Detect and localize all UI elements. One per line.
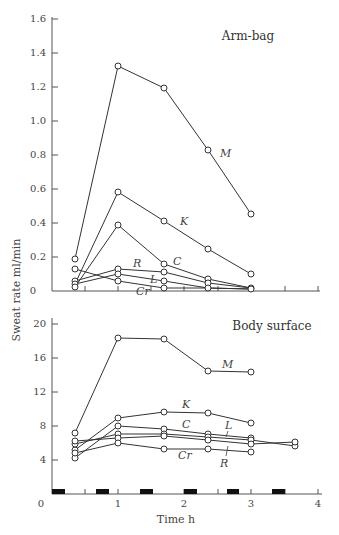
y-tick-label: 8 bbox=[40, 420, 46, 431]
x-tick-label: 1 bbox=[115, 498, 121, 509]
series-label-M: M bbox=[219, 147, 232, 160]
y-tick-label: 1.6 bbox=[30, 13, 46, 24]
y-tick-label: 12 bbox=[33, 386, 46, 397]
panel-title-body-surface: Body surface bbox=[232, 319, 311, 333]
series-label-K: K bbox=[179, 215, 189, 228]
y-tick-label: 0.4 bbox=[30, 217, 46, 228]
y-tick-label: 1.4 bbox=[30, 47, 46, 58]
arm-bag-lines bbox=[75, 66, 251, 289]
series-label-M: M bbox=[221, 358, 234, 371]
series-M-line bbox=[75, 66, 251, 259]
series-label-R: R bbox=[219, 457, 228, 470]
y-tick-label: 1.0 bbox=[30, 115, 46, 126]
series-label-L: L bbox=[224, 419, 232, 432]
series-label-Cr: Cr bbox=[178, 449, 192, 462]
y-tick-label: 20 bbox=[33, 318, 46, 329]
sweat-rate-figure: 1.6 1.4 1.2 1.0 0.8 0.6 0.4 0.2 0 Arm-ba… bbox=[0, 0, 339, 535]
label-pointer-arrows bbox=[226, 431, 228, 456]
y-tick-label: 0.8 bbox=[30, 149, 46, 160]
y-ticks bbox=[52, 324, 58, 460]
series-label-Cr: Cr bbox=[136, 285, 150, 298]
series-label-K: K bbox=[181, 398, 191, 411]
y-tick-label: 0 bbox=[30, 285, 36, 296]
x-tick-label: 0 bbox=[38, 498, 44, 509]
exercise-period-bars bbox=[52, 489, 285, 494]
y-tick-label: 0.6 bbox=[30, 183, 46, 194]
y-tick-label: 16 bbox=[33, 352, 46, 363]
x-axis-title: Time h bbox=[157, 513, 195, 526]
arm-bag-panel: 1.6 1.4 1.2 1.0 0.8 0.6 0.4 0.2 0 Arm-ba… bbox=[30, 13, 320, 298]
body-surface-panel: 20 16 12 8 4 0 1 2 3 4 Time h Body surfa… bbox=[33, 318, 322, 526]
series-label-R: R bbox=[132, 257, 141, 270]
y-tick-label: 4 bbox=[40, 454, 46, 465]
x-tick-label: 4 bbox=[315, 498, 321, 509]
series-L-line bbox=[75, 434, 295, 446]
series-label-C: C bbox=[182, 418, 191, 431]
y-ticks bbox=[52, 19, 58, 257]
y-tick-label: 1.2 bbox=[30, 81, 46, 92]
series-label-L: L bbox=[149, 273, 157, 286]
y-tick-label: 0.2 bbox=[30, 251, 46, 262]
series-label-C: C bbox=[173, 255, 182, 268]
x-tick-label: 2 bbox=[181, 498, 187, 509]
series-R-line bbox=[75, 436, 295, 444]
x-tick-label: 3 bbox=[248, 498, 254, 509]
panel-title-arm-bag: Arm-bag bbox=[221, 29, 275, 43]
y-axis-title: Sweat rate ml/min bbox=[10, 239, 23, 342]
